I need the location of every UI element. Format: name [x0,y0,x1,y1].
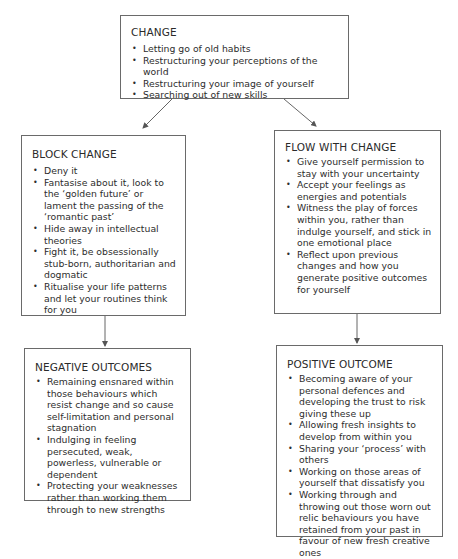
node-title: CHANGE [131,26,340,38]
list-item: Witness the play of forces within you, r… [285,202,432,248]
node-title: FLOW WITH CHANGE [285,141,432,153]
list-item: Give yourself permission to stay with yo… [285,156,432,179]
list-item: Letting go of old habits [131,43,340,55]
list-item: Working on those areas of yourself that … [287,466,434,489]
list-item: Restructuring your perceptions of the wo… [131,55,340,78]
node-list: Remaining ensnared within those behaviou… [35,376,182,515]
list-item: Fantasise about it, look to the ‘golden … [32,177,177,223]
list-item: Working through and throwing out those w… [287,489,434,559]
node-flow-with-change: FLOW WITH CHANGE Give yourself permissio… [274,130,441,314]
node-change: CHANGE Letting go of old habits Restruct… [120,15,349,99]
list-item: Reflect upon previous changes and how yo… [285,249,432,295]
node-negative-outcomes: NEGATIVE OUTCOMES Remaining ensnared wit… [24,348,191,501]
node-positive-outcome: POSITIVE OUTCOME Becoming aware of your … [276,345,443,537]
list-item: Sharing your ‘process’ with others [287,443,434,466]
arrow-change-to-flow [284,99,316,126]
list-item: Protecting your weaknesses rather than w… [35,480,182,515]
list-item: Deny it [32,165,177,177]
list-item: Remaining ensnared within those behaviou… [35,376,182,434]
list-item: Ritualise your life patterns and let you… [32,281,177,316]
node-list: Becoming aware of your personal defences… [287,373,434,559]
list-item: Accept your feelings as energies and pot… [285,179,432,202]
list-item: Allowing fresh insights to develop from … [287,419,434,442]
node-block-change: BLOCK CHANGE Deny it Fantasise about it,… [21,135,186,316]
node-title: NEGATIVE OUTCOMES [35,361,182,373]
node-list: Letting go of old habits Restructuring y… [131,43,340,101]
list-item: Fight it, be obsessionally stub-born, au… [32,246,177,281]
node-title: BLOCK CHANGE [32,148,177,160]
list-item: Hide away in intellectual theories [32,223,177,246]
list-item: Restructuring your image of yourself [131,78,340,90]
list-item: Searching out of new skills [131,89,340,101]
node-title: POSITIVE OUTCOME [287,358,434,370]
arrow-change-to-block [143,99,172,128]
list-item: Indulging in feeling persecuted, weak, p… [35,434,182,480]
node-list: Deny it Fantasise about it, look to the … [32,165,177,316]
node-list: Give yourself permission to stay with yo… [285,156,432,295]
list-item: Becoming aware of your personal defences… [287,373,434,419]
